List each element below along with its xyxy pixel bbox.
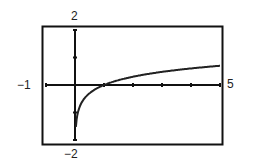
axes (46, 30, 220, 140)
plot-area (0, 0, 253, 168)
function-curve (76, 66, 220, 127)
